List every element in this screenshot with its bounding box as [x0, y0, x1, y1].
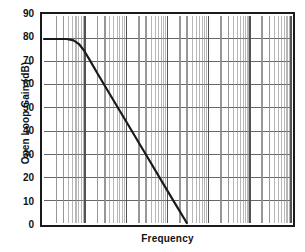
y-tick-label: 40	[2, 126, 34, 136]
x-axis-title: Frequency	[40, 233, 295, 244]
y-axis-tick-labels: 9080706050403020100	[0, 0, 36, 252]
y-tick-label: 60	[2, 79, 34, 89]
y-tick-label: 70	[2, 56, 34, 66]
y-tick-label: 10	[2, 197, 34, 207]
y-tick-label: 30	[2, 150, 34, 160]
gain-curve	[42, 14, 293, 225]
y-tick-label: 80	[2, 32, 34, 42]
y-tick-label: 90	[2, 9, 34, 19]
y-tick-label: 50	[2, 103, 34, 113]
y-tick-label: 20	[2, 173, 34, 183]
plot-area	[40, 12, 295, 227]
y-tick-label: 0	[2, 220, 34, 230]
open-loop-gain-bode-chart: Open Loop Gain (dB) 9080706050403020100 …	[0, 0, 305, 252]
